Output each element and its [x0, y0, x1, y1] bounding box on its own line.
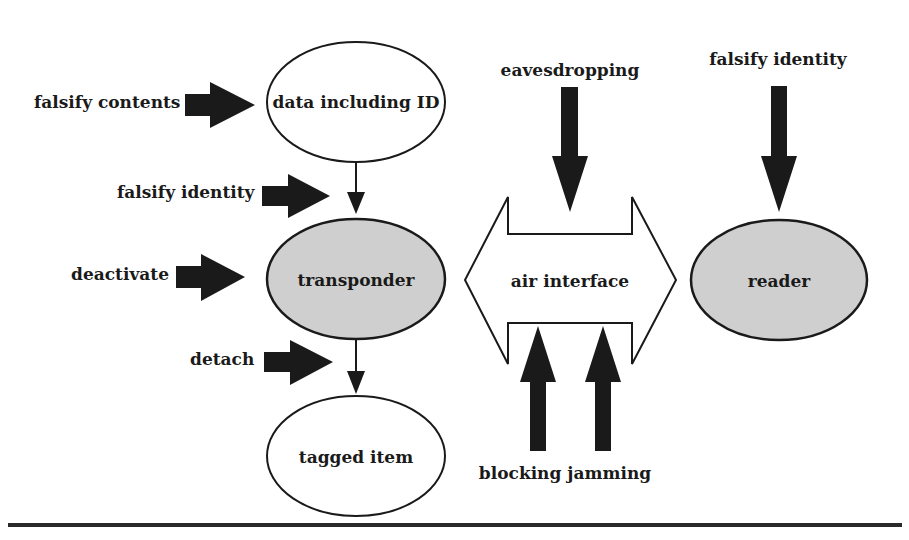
- attack-detach: detach: [190, 340, 333, 385]
- right-arrow-icon: [185, 82, 255, 128]
- attack-falsify-identity-reader: falsify identity: [709, 49, 848, 212]
- node-tagged-item: tagged item: [267, 396, 445, 516]
- edge-transponder-to-tagged-item: [347, 339, 365, 394]
- attack-falsify-identity-tag: falsify identity: [117, 174, 330, 218]
- arrowhead-icon: [347, 192, 365, 214]
- node-data-label: data including ID: [273, 92, 440, 112]
- right-arrow-icon: [264, 340, 333, 385]
- right-arrow-icon: [176, 254, 245, 301]
- attack-deactivate-label: deactivate: [71, 264, 169, 284]
- attack-falsify-identity-tag-label: falsify identity: [117, 182, 256, 202]
- attack-deactivate: deactivate: [71, 254, 245, 301]
- edge-data-to-transponder: [347, 162, 365, 214]
- attack-falsify-identity-reader-label: falsify identity: [709, 49, 848, 69]
- node-data-including-id: data including ID: [267, 42, 445, 162]
- attack-falsify-contents: falsify contents: [34, 82, 255, 128]
- attack-eavesdropping-label: eavesdropping: [501, 60, 640, 80]
- node-tagged-item-label: tagged item: [299, 447, 413, 467]
- attack-detach-label: detach: [190, 349, 254, 369]
- down-arrow-icon: [552, 87, 588, 212]
- node-reader-label: reader: [748, 271, 811, 291]
- node-transponder: transponder: [267, 219, 445, 339]
- up-arrow-icon: [520, 326, 556, 451]
- right-arrow-icon: [262, 174, 330, 218]
- attack-falsify-contents-label: falsify contents: [34, 92, 180, 112]
- down-arrow-icon: [761, 86, 797, 212]
- bottom-rule: [8, 523, 902, 527]
- node-air-interface: air interface: [465, 197, 676, 364]
- node-transponder-label: transponder: [298, 270, 416, 290]
- node-reader: reader: [691, 220, 867, 340]
- arrowhead-icon: [347, 371, 365, 394]
- up-arrow-icon: [585, 326, 621, 451]
- attack-eavesdropping: eavesdropping: [501, 60, 640, 212]
- attack-blocking-jamming-label: blocking jamming: [479, 463, 651, 483]
- rfid-attack-diagram: data including ID transponder tagged ite…: [0, 0, 909, 540]
- node-air-interface-label: air interface: [511, 271, 629, 291]
